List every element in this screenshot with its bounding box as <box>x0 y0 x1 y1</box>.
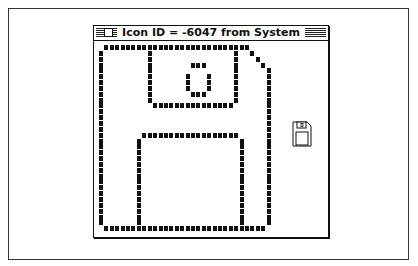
fatbit-pixel[interactable] <box>99 203 103 208</box>
fatbit-pixel[interactable] <box>267 162 271 167</box>
fatbit-pixel[interactable] <box>99 209 103 214</box>
fatbit-pixel[interactable] <box>126 45 130 50</box>
fatbit-pixel[interactable] <box>196 45 200 50</box>
fatbit-pixel[interactable] <box>137 139 141 144</box>
fatbit-pixel[interactable] <box>159 45 163 50</box>
fatbit-pixel[interactable] <box>99 139 103 144</box>
fatbit-pixel[interactable] <box>148 80 152 85</box>
fatbit-pixel[interactable] <box>159 133 163 138</box>
fatbit-pixel[interactable] <box>191 226 195 231</box>
fatbit-pixel[interactable] <box>267 197 271 202</box>
fatbit-pixel[interactable] <box>229 45 233 50</box>
fatbit-pixel[interactable] <box>180 133 184 138</box>
fatbit-pixel[interactable] <box>207 133 211 138</box>
fatbit-pixel[interactable] <box>186 86 190 91</box>
fatbit-pixel[interactable] <box>169 45 173 50</box>
fatbit-pixel[interactable] <box>240 191 244 196</box>
fatbit-pixel[interactable] <box>234 63 238 68</box>
fatbit-pixel[interactable] <box>186 133 190 138</box>
fatbit-pixel[interactable] <box>99 51 103 56</box>
fatbit-pixel[interactable] <box>99 68 103 73</box>
fatbit-pixel[interactable] <box>137 174 141 179</box>
fatbit-pixel[interactable] <box>261 63 265 68</box>
fatbit-pixel[interactable] <box>240 144 244 149</box>
fatbit-pixel[interactable] <box>175 226 179 231</box>
fatbit-pixel[interactable] <box>148 98 152 103</box>
fatbit-pixel[interactable] <box>99 220 103 225</box>
fatbit-pixel[interactable] <box>137 197 141 202</box>
fatbit-pixel[interactable] <box>202 133 206 138</box>
fatbit-pixel[interactable] <box>153 226 157 231</box>
fatbit-pixel[interactable] <box>191 92 195 97</box>
fatbit-pixel[interactable] <box>99 109 103 114</box>
fatbit-pixel[interactable] <box>218 226 222 231</box>
fatbit-pixel[interactable] <box>137 226 141 231</box>
fatbit-pixel[interactable] <box>137 185 141 190</box>
fatbit-pixel[interactable] <box>148 68 152 73</box>
fatbit-pixel[interactable] <box>234 80 238 85</box>
fatbit-pixel[interactable] <box>121 226 125 231</box>
fatbit-pixel[interactable] <box>213 103 217 108</box>
fatbit-pixel[interactable] <box>115 226 119 231</box>
fatbit-pixel[interactable] <box>240 139 244 144</box>
fatbit-pixel[interactable] <box>110 45 114 50</box>
fatbit-pixel[interactable] <box>234 68 238 73</box>
fatbit-pixel[interactable] <box>234 133 238 138</box>
fatbit-pixel[interactable] <box>256 57 260 62</box>
fatbit-pixel[interactable] <box>186 226 190 231</box>
fatbit-pixel[interactable] <box>169 133 173 138</box>
fatbit-pixel[interactable] <box>104 45 108 50</box>
fatbit-pixel[interactable] <box>99 174 103 179</box>
fatbit-pixel[interactable] <box>218 103 222 108</box>
fatbit-pixel[interactable] <box>213 133 217 138</box>
fatbit-pixel[interactable] <box>121 45 125 50</box>
fatbit-pixel[interactable] <box>99 197 103 202</box>
fatbit-pixel[interactable] <box>148 133 152 138</box>
fatbit-pixel[interactable] <box>99 103 103 108</box>
fatbit-pixel[interactable] <box>202 45 206 50</box>
fatbit-pixel[interactable] <box>267 185 271 190</box>
fatbit-pixel[interactable] <box>99 185 103 190</box>
fatbit-pixel[interactable] <box>223 226 227 231</box>
fatbit-pixel[interactable] <box>99 115 103 120</box>
title-bar[interactable]: Icon ID = -6047 from System <box>94 26 328 41</box>
fatbit-pixel[interactable] <box>267 103 271 108</box>
fatbit-pixel[interactable] <box>267 139 271 144</box>
fatbit-pixel[interactable] <box>99 179 103 184</box>
fatbit-pixel[interactable] <box>153 133 157 138</box>
fatbit-pixel[interactable] <box>137 203 141 208</box>
fatbit-pixel[interactable] <box>148 63 152 68</box>
fatbit-pixel[interactable] <box>234 45 238 50</box>
fatbit-pixel[interactable] <box>153 45 157 50</box>
fatbit-pixel[interactable] <box>191 45 195 50</box>
fatbit-pixel[interactable] <box>223 45 227 50</box>
fatbit-pixel[interactable] <box>196 133 200 138</box>
fatbit-pixel[interactable] <box>240 226 244 231</box>
fatbit-pixel[interactable] <box>240 203 244 208</box>
fatbit-pixel[interactable] <box>186 45 190 50</box>
fatbit-pixel[interactable] <box>267 179 271 184</box>
fatbit-pixel[interactable] <box>180 103 184 108</box>
fatbit-pixel[interactable] <box>159 103 163 108</box>
fatbit-pixel[interactable] <box>256 226 260 231</box>
fatbit-pixel[interactable] <box>169 226 173 231</box>
fatbit-pixel[interactable] <box>180 45 184 50</box>
fatbit-pixel[interactable] <box>99 215 103 220</box>
fatbit-pixel[interactable] <box>267 220 271 225</box>
fatbit-pixel[interactable] <box>267 80 271 85</box>
fatbit-pixel[interactable] <box>202 226 206 231</box>
fatbit-pixel[interactable] <box>99 150 103 155</box>
fatbit-pixel[interactable] <box>196 226 200 231</box>
fatbit-pixel[interactable] <box>110 226 114 231</box>
fatbit-pixel[interactable] <box>240 174 244 179</box>
fatbit-pixel[interactable] <box>267 127 271 132</box>
fatbit-pixel[interactable] <box>115 45 119 50</box>
fatbit-pixel[interactable] <box>148 51 152 56</box>
fatbit-pixel[interactable] <box>137 209 141 214</box>
close-box[interactable] <box>104 28 113 37</box>
fatbit-pixel[interactable] <box>99 63 103 68</box>
fatbit-pixel[interactable] <box>99 127 103 132</box>
fatbit-pixel[interactable] <box>267 121 271 126</box>
fatbit-pixel[interactable] <box>240 197 244 202</box>
fatbit-pixel[interactable] <box>267 86 271 91</box>
